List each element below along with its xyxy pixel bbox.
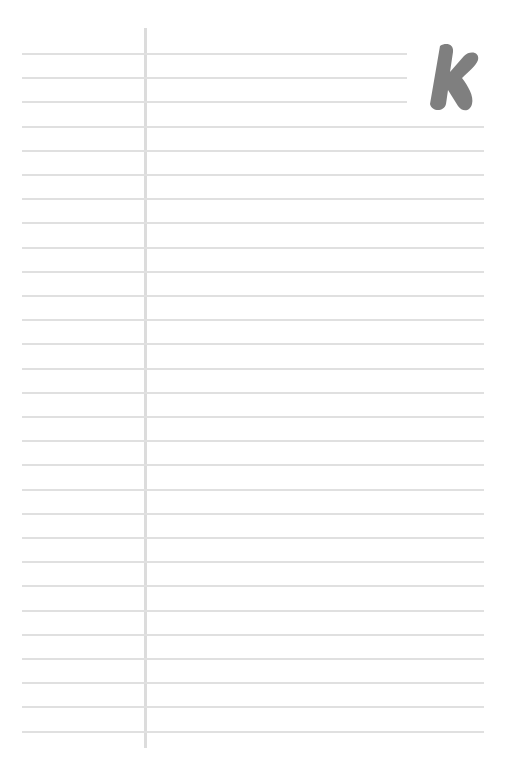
ruled-line [22, 731, 484, 733]
ruled-line [22, 53, 407, 55]
ruled-line [22, 150, 484, 152]
ruled-line [22, 658, 484, 660]
margin-line [144, 28, 147, 748]
ruled-line [22, 247, 484, 249]
ruled-line [22, 198, 484, 200]
ruled-line [22, 682, 484, 684]
ruled-line [22, 174, 484, 176]
ruled-line [22, 561, 484, 563]
ruled-line [22, 101, 407, 103]
ruled-line [22, 585, 484, 587]
ruled-line [22, 392, 484, 394]
ruled-line [22, 416, 484, 418]
ruled-line [22, 295, 484, 297]
ruled-line [22, 513, 484, 515]
ruled-line [22, 319, 484, 321]
ruled-line [22, 77, 407, 79]
ruled-line [22, 610, 484, 612]
ruled-line [22, 537, 484, 539]
notepaper-page [0, 0, 507, 778]
ruled-line [22, 222, 484, 224]
ruled-line [22, 126, 484, 128]
k-logo-icon [426, 42, 484, 112]
ruled-line [22, 706, 484, 708]
ruled-line [22, 634, 484, 636]
ruled-line [22, 368, 484, 370]
ruled-line [22, 489, 484, 491]
ruled-line [22, 343, 484, 345]
ruled-line [22, 440, 484, 442]
ruled-line [22, 271, 484, 273]
ruled-line [22, 464, 484, 466]
